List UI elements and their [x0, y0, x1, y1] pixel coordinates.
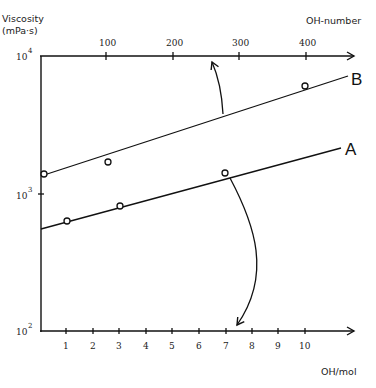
bottom-tick-9: 9 [275, 341, 281, 351]
bottom-tick-5: 5 [169, 341, 175, 351]
svg-text:2: 2 [28, 322, 32, 330]
arrow-b-to-top-axis-icon [212, 62, 223, 114]
top-tick-200: 200 [166, 38, 183, 48]
svg-text:3: 3 [28, 186, 32, 194]
bottom-tick-7: 7 [223, 341, 229, 351]
bottom-tick-2: 2 [90, 341, 96, 351]
series-b-point [41, 171, 47, 177]
series-a: A [41, 140, 357, 229]
y-axis-label-line2: (mPa·s) [2, 25, 38, 36]
svg-text:10: 10 [16, 191, 28, 201]
bottom-tick-8: 8 [249, 341, 255, 351]
bottom-tick-4: 4 [143, 341, 149, 351]
bottom-tick-3: 3 [116, 341, 122, 351]
svg-text:4: 4 [28, 47, 33, 55]
series-a-point [64, 218, 70, 224]
y-tick-label-1000: 10 3 [16, 186, 32, 201]
svg-text:10: 10 [16, 327, 28, 337]
top-tick-100: 100 [99, 38, 116, 48]
series-a-point [117, 203, 123, 209]
series-b: B [41, 70, 362, 177]
bottom-tick-1: 1 [63, 341, 69, 351]
svg-text:10: 10 [16, 52, 28, 62]
bottom-tick-10: 10 [299, 341, 311, 351]
top-axis-label: OH-number [306, 15, 361, 26]
series-a-label: A [345, 140, 357, 159]
arrow-a-to-bottom-axis-icon [230, 178, 257, 325]
series-b-point [105, 159, 111, 165]
series-a-fit-line [41, 148, 341, 229]
y-tick-label-100: 10 2 [16, 322, 32, 337]
top-tick-300: 300 [232, 38, 249, 48]
series-b-fit-line [41, 76, 348, 176]
viscosity-chart: Viscosity (mPa·s) OH-number 100 200 300 … [0, 0, 376, 388]
series-b-point [302, 83, 308, 89]
y-tick-label-10000: 10 4 [16, 47, 33, 62]
series-b-label: B [351, 70, 362, 89]
bottom-tick-6: 6 [196, 341, 202, 351]
series-a-point [222, 170, 228, 176]
top-tick-400: 400 [299, 38, 316, 48]
y-axis-label-line1: Viscosity [2, 13, 44, 24]
bottom-axis-label: OH/mol [321, 366, 357, 377]
